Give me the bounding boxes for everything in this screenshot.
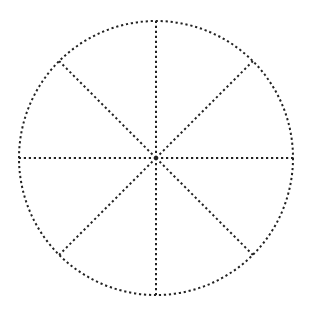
center-point <box>154 156 158 160</box>
spoke-line-315 <box>156 158 253 255</box>
spoke-line-135 <box>59 61 156 158</box>
spoke-line-45 <box>156 61 253 158</box>
sector-circle-diagram <box>0 0 316 317</box>
spoke-line-225 <box>59 158 156 255</box>
